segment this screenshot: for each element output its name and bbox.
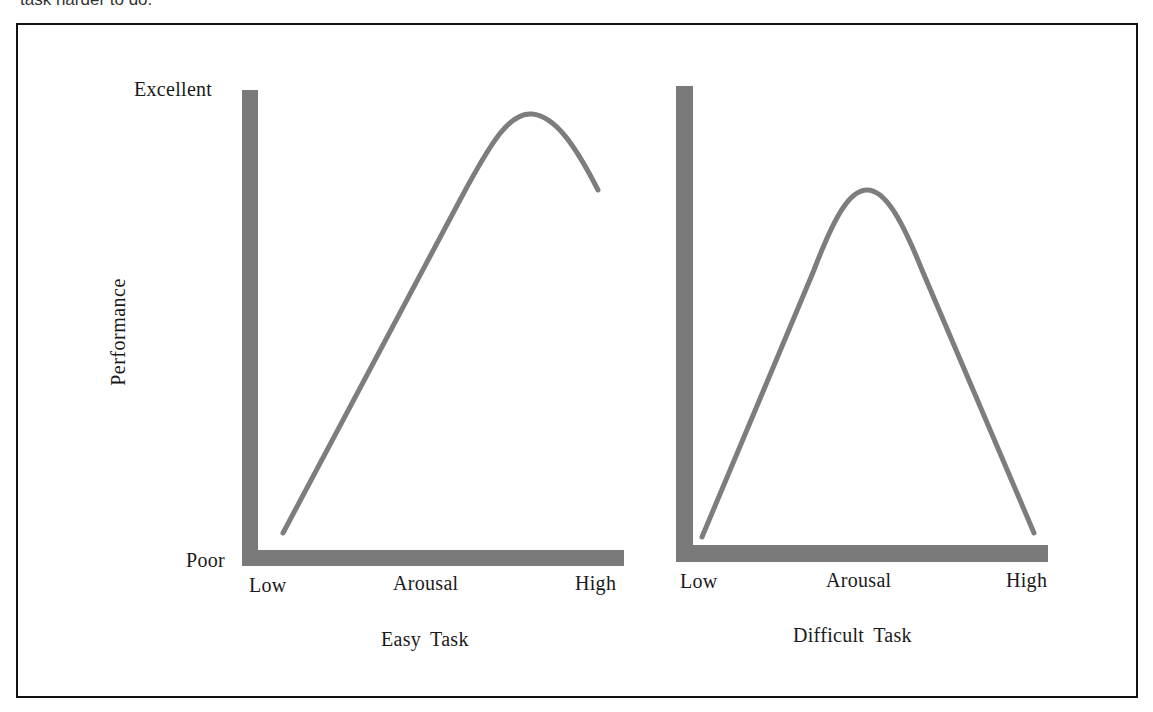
easy-x-low-label: Low — [249, 574, 287, 597]
easy-task-curve — [283, 114, 598, 533]
y-axis-bottom-label: Poor — [186, 549, 225, 572]
y-axis-title: Performance — [107, 278, 130, 386]
difficult-x-high-label: High — [1006, 569, 1047, 592]
difficult-task-caption: Difficult Task — [793, 624, 912, 647]
difficult-x-low-label: Low — [680, 570, 718, 593]
easy-x-axis — [242, 550, 624, 566]
easy-x-mid-label: Arousal — [393, 572, 458, 595]
plot-canvas — [0, 0, 1153, 712]
easy-x-high-label: High — [575, 572, 616, 595]
easy-y-axis — [242, 90, 258, 566]
difficult-x-axis — [676, 545, 1048, 562]
difficult-task-curve — [702, 190, 1034, 537]
y-axis-top-label: Excellent — [134, 78, 212, 101]
easy-task-caption: Easy Task — [381, 628, 469, 651]
difficult-x-mid-label: Arousal — [826, 569, 891, 592]
difficult-y-axis — [676, 86, 693, 561]
